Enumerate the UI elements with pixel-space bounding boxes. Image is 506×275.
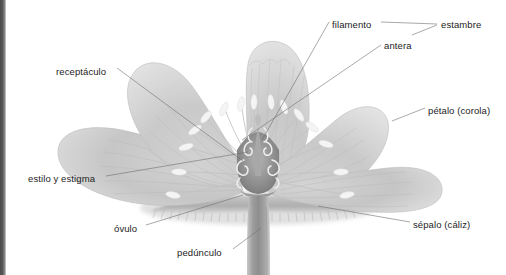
peduncle — [247, 196, 270, 275]
flower-anatomy-figure: receptáculo estilo y estigma óvulo pedún… — [0, 0, 506, 275]
label-filamento: filamento — [332, 19, 371, 30]
label-pedunculo: pedúnculo — [177, 247, 222, 258]
flower-illustration — [0, 0, 506, 275]
label-receptaculo: receptáculo — [56, 66, 106, 77]
label-ovulo: óvulo — [114, 223, 137, 234]
label-sepalo: sépalo (cáliz) — [413, 219, 470, 230]
label-estambre: estambre — [441, 19, 481, 30]
label-petalo: pétalo (corola) — [428, 105, 490, 116]
label-antera: antera — [384, 40, 412, 51]
label-estilo-estigma: estilo y estigma — [28, 173, 95, 184]
